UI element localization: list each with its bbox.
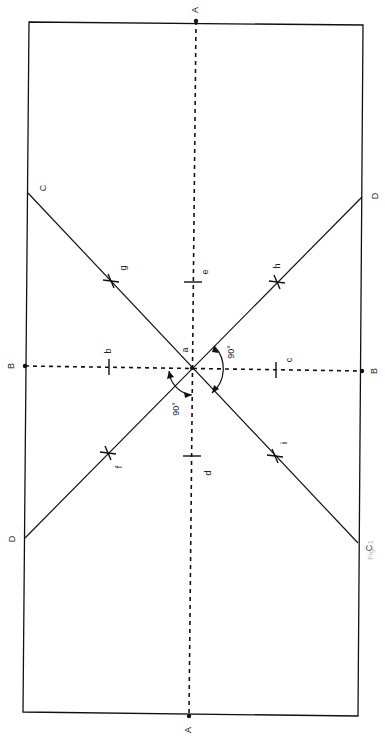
label-e: e bbox=[200, 269, 210, 274]
point-a-dot bbox=[194, 19, 198, 23]
center-point-dot bbox=[190, 366, 194, 370]
point-a-dot bbox=[187, 714, 191, 718]
label-a: A bbox=[183, 727, 193, 733]
point-b-dot bbox=[23, 364, 27, 368]
label-i: i bbox=[279, 442, 289, 444]
label-h: h bbox=[272, 263, 282, 268]
label-f: f bbox=[114, 465, 124, 468]
label-g: g bbox=[118, 265, 128, 270]
label-d: D bbox=[370, 192, 380, 199]
label-b: B bbox=[6, 363, 16, 369]
cross-mark-g bbox=[103, 274, 119, 288]
label-a: A bbox=[190, 7, 200, 13]
right-angle-arcs bbox=[167, 346, 223, 398]
label-center-a: a bbox=[180, 347, 190, 352]
endpoint-dots bbox=[23, 19, 364, 718]
label-b: b bbox=[103, 348, 113, 353]
label-c: C bbox=[38, 184, 48, 191]
geometric-diagram: AABBCDDCedbcghfia90°90° bbox=[0, 0, 385, 739]
label-c: c bbox=[284, 357, 294, 362]
label-d: D bbox=[7, 535, 17, 542]
point-b-dot bbox=[360, 369, 364, 373]
figure-caption: Fig. 1 bbox=[366, 540, 375, 560]
label-b: B bbox=[369, 368, 379, 374]
angle-label-2: 90° bbox=[171, 402, 181, 416]
label-d: d bbox=[203, 470, 213, 475]
angle-label-1: 90° bbox=[226, 345, 236, 359]
